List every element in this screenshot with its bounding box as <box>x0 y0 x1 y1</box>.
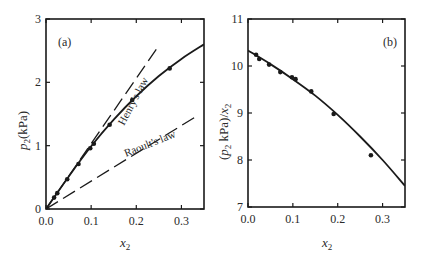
x-tick-label: 0.1 <box>84 214 99 228</box>
y-axis-title-a: p2(kPa) <box>15 111 32 151</box>
data-point <box>331 112 336 117</box>
series-b <box>248 50 405 185</box>
fit-curve-line <box>248 50 405 185</box>
data-point <box>107 122 112 127</box>
data-point <box>254 52 259 57</box>
y-tick-label: 11 <box>231 12 243 26</box>
panel-a: 0.00.10.20.30123 (a) Henry's law Raoult'… <box>15 12 204 252</box>
data-point <box>167 66 172 71</box>
x-tick-label: 0.0 <box>241 212 256 226</box>
panel-b: 0.00.10.20.37891011 (b) (p2 kPa)/x2 x2 <box>216 12 405 252</box>
ticks-b: 0.00.10.20.37891011 <box>231 12 405 226</box>
panel-label-a: (a) <box>58 35 71 49</box>
y-tick-label: 7 <box>237 200 243 214</box>
y-tick-label: 9 <box>237 106 243 120</box>
y-tick-label: 8 <box>237 153 243 167</box>
data-point <box>257 57 262 62</box>
panel-label-b: (b) <box>383 35 397 49</box>
data-points-b <box>254 52 373 157</box>
data-point <box>65 177 70 182</box>
data-point <box>76 162 81 167</box>
data-point <box>309 89 314 94</box>
x-tick-label: 0.2 <box>129 214 144 228</box>
x-tick-label: 0.0 <box>39 214 54 228</box>
data-point <box>52 195 57 200</box>
henry-s-law-line <box>46 46 159 209</box>
data-point <box>88 146 93 151</box>
data-point <box>369 153 374 158</box>
x-axis-title-a: x2 <box>119 235 130 252</box>
x-tick-label: 0.2 <box>330 212 345 226</box>
y-tick-label: 0 <box>35 202 41 216</box>
x-tick-label: 0.3 <box>375 212 390 226</box>
data-point <box>293 77 298 82</box>
figure: 0.00.10.20.30123 (a) Henry's law Raoult'… <box>0 0 424 266</box>
x-axis-title-b: x2 <box>321 235 332 252</box>
x-tick-label: 0.1 <box>285 212 300 226</box>
y-tick-label: 2 <box>35 75 41 89</box>
y-tick-label: 10 <box>231 59 243 73</box>
plot-frame-b <box>248 19 405 207</box>
data-point <box>278 70 283 75</box>
y-axis-title-b: (p2 kPa)/x2 <box>216 104 233 160</box>
y-tick-label: 3 <box>35 12 41 26</box>
x-tick-label: 0.3 <box>174 214 189 228</box>
data-points-a <box>52 66 172 200</box>
raoults-law-label: Raoult's law <box>122 127 177 158</box>
data-point <box>55 191 60 196</box>
data-point <box>267 62 272 67</box>
y-tick-label: 1 <box>35 139 41 153</box>
data-point <box>92 141 97 146</box>
